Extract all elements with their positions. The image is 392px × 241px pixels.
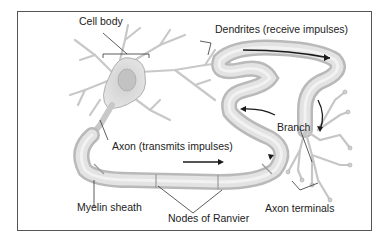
label-dendrites: Dendrites (receive impulses) <box>215 24 348 35</box>
label-axon-terminals: Axon terminals <box>265 203 334 214</box>
dendrites <box>70 25 230 120</box>
label-axon: Axon (transmits impulses) <box>112 141 233 152</box>
label-cell-body: Cell body <box>79 16 123 27</box>
label-branch: Branch <box>277 122 310 133</box>
label-nodes-of-ranvier: Nodes of Ranvier <box>168 213 249 224</box>
label-myelin-sheath: Myelin sheath <box>77 202 142 213</box>
nucleus <box>118 69 136 91</box>
